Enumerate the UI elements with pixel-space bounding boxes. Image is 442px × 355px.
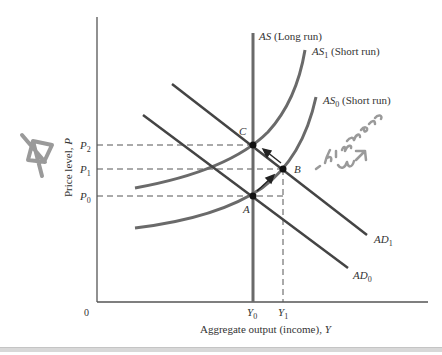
x-axis-title: Aggregate output (income), Y	[200, 323, 333, 336]
bottom-divider	[0, 347, 442, 352]
point-c	[250, 142, 257, 149]
y0-tick-label: Y0	[247, 306, 257, 321]
axes	[97, 17, 428, 302]
origin-label: 0	[84, 307, 89, 318]
movement-arrows	[257, 149, 281, 191]
ad1-label: AD1	[373, 233, 393, 248]
point-b-label: B	[294, 163, 301, 175]
p0-tick-label: P0	[79, 190, 91, 205]
point-a	[250, 193, 257, 200]
star-doodle-icon	[22, 135, 52, 176]
y-axis-title: Price level, P	[62, 138, 74, 197]
ad0-curve	[143, 115, 348, 268]
y1-tick-label: Y1	[278, 306, 288, 321]
as1-label: AS1 (Short run)	[311, 45, 380, 60]
handwritten-note	[316, 115, 381, 169]
p2-tick-label: P2	[79, 139, 91, 154]
as0-label: AS0 (Short run)	[322, 94, 391, 109]
point-c-label: C	[239, 125, 247, 137]
p1-tick-label: P1	[79, 163, 91, 178]
guide-lines	[97, 145, 283, 302]
as-long-run-label: AS (Long run)	[258, 30, 322, 43]
point-a-label: A	[242, 203, 250, 215]
point-b	[280, 166, 287, 173]
ad0-label: AD0	[352, 269, 372, 284]
